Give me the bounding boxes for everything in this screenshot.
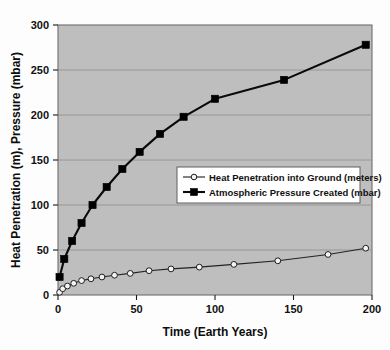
data-point [119, 165, 126, 172]
y-tick-label-300: 300 [31, 19, 49, 31]
data-point [71, 280, 77, 286]
data-point [99, 274, 105, 280]
data-point [180, 113, 187, 120]
y-tick-label-0: 0 [43, 289, 49, 301]
data-point [275, 258, 281, 264]
open-circle-icon [191, 174, 197, 180]
data-point [363, 245, 369, 251]
legend-label-pressure: Atmospheric Pressure Created (mbar) [209, 187, 381, 198]
x-axis-tick-labels: 0 50 100 150 200 [55, 303, 381, 315]
x-axis-title: Time (Earth Years) [163, 325, 268, 339]
data-point [103, 183, 110, 190]
y-tick-label-100: 100 [31, 199, 49, 211]
x-axis-ticks [58, 295, 372, 300]
chart-figure: 300 250 200 150 100 50 0 0 50 100 150 20… [0, 0, 390, 350]
legend-entry-heat-penetration[interactable]: Heat Penetration into Ground (meters) [183, 172, 382, 183]
data-point [146, 268, 152, 274]
data-point [211, 95, 218, 102]
y-axis-title: Heat Penetration (m), Pressure (mbar) [9, 52, 23, 268]
y-axis-ticks [53, 25, 58, 295]
x-tick-label-150: 150 [284, 303, 302, 315]
y-tick-label-50: 50 [37, 244, 49, 256]
filled-square-icon [191, 189, 198, 196]
data-point [231, 262, 237, 268]
y-tick-label-250: 250 [31, 64, 49, 76]
data-point [325, 252, 331, 258]
data-point [112, 272, 118, 278]
data-point [127, 271, 133, 277]
data-point [136, 148, 143, 155]
legend-label-heat: Heat Penetration into Ground (meters) [209, 172, 382, 183]
x-tick-label-200: 200 [363, 303, 381, 315]
x-tick-label-50: 50 [130, 303, 142, 315]
line-chart: 300 250 200 150 100 50 0 0 50 100 150 20… [0, 0, 390, 350]
data-point [88, 276, 94, 282]
data-point [78, 219, 85, 226]
chart-legend: Heat Penetration into Ground (meters) At… [177, 167, 382, 203]
legend-entry-atmospheric-pressure[interactable]: Atmospheric Pressure Created (mbar) [183, 187, 381, 198]
y-tick-label-200: 200 [31, 109, 49, 121]
data-point [61, 255, 68, 262]
data-point [89, 201, 96, 208]
data-point [69, 237, 76, 244]
y-axis-tick-labels: 300 250 200 150 100 50 0 [31, 19, 49, 301]
data-point [65, 283, 71, 289]
data-point [56, 273, 63, 280]
data-point [79, 278, 85, 284]
data-point [280, 76, 287, 83]
data-point [156, 130, 163, 137]
data-point [362, 41, 369, 48]
x-tick-label-0: 0 [55, 303, 61, 315]
y-tick-label-150: 150 [31, 154, 49, 166]
data-point [196, 264, 202, 270]
x-tick-label-100: 100 [206, 303, 224, 315]
data-point [168, 266, 174, 272]
